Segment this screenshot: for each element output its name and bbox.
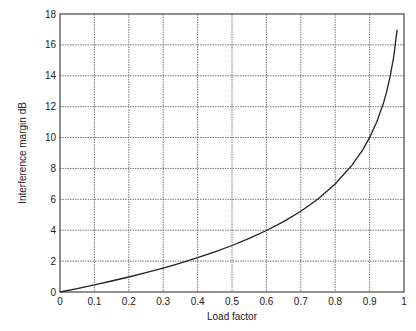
data-series-line	[60, 30, 397, 292]
y-tick-label: 8	[50, 163, 56, 174]
y-tick-label: 10	[45, 132, 57, 143]
y-tick-label: 16	[45, 39, 57, 50]
y-tick-label: 18	[45, 9, 57, 20]
x-tick-label: 0	[57, 296, 63, 307]
line-chart: 00.10.20.30.40.50.60.70.80.91 0246810121…	[0, 0, 416, 331]
x-tick-label: 0.7	[294, 296, 308, 307]
x-tick-label: 0.9	[363, 296, 377, 307]
x-tick-label: 0.8	[328, 296, 342, 307]
y-tick-label: 14	[45, 70, 57, 81]
x-tick-label: 0.5	[225, 296, 239, 307]
y-axis-label: Interference margin dB	[17, 102, 28, 204]
x-tick-label: 0.1	[87, 296, 101, 307]
y-tick-label: 0	[50, 287, 56, 298]
y-axis-ticks: 024681012141618	[45, 9, 57, 298]
x-tick-label: 0.6	[259, 296, 273, 307]
x-tick-label: 0.2	[122, 296, 136, 307]
y-tick-label: 12	[45, 101, 57, 112]
x-tick-label: 0.3	[156, 296, 170, 307]
y-tick-label: 6	[50, 194, 56, 205]
x-axis-label: Load factor	[207, 311, 258, 322]
grid-lines	[60, 14, 404, 292]
x-axis-ticks: 00.10.20.30.40.50.60.70.80.91	[57, 296, 407, 307]
y-tick-label: 2	[50, 256, 56, 267]
x-tick-label: 1	[401, 296, 407, 307]
y-tick-label: 4	[50, 225, 56, 236]
x-tick-label: 0.4	[191, 296, 205, 307]
